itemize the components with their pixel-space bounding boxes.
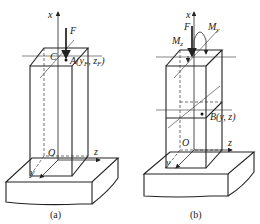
y-axis-b bbox=[176, 150, 194, 168]
x-axis-label-a: x bbox=[47, 9, 53, 20]
y-axis-label-a: y bbox=[29, 167, 35, 178]
y-axis-label-b: y bbox=[165, 157, 171, 168]
moment-arrow-b bbox=[194, 32, 206, 56]
y-axis-a bbox=[40, 160, 58, 178]
point-a-label: A(yF, zF) bbox=[69, 55, 105, 68]
caption-a: (a) bbox=[50, 209, 61, 221]
axes-a: x z y O bbox=[22, 9, 102, 178]
base-plate-b bbox=[144, 152, 254, 197]
moment-z-label: Mz bbox=[171, 35, 183, 48]
axes-b: x z y O bbox=[156, 9, 236, 168]
z-axis-label-a: z bbox=[93, 146, 98, 157]
x-axis-label-b: x bbox=[185, 9, 191, 20]
force-label-a: F bbox=[69, 25, 77, 36]
z-axis-label-b: z bbox=[227, 137, 232, 148]
figure-a: x z y O F C A(yF, zF) (a) bbox=[6, 9, 118, 221]
moment-y-label: My bbox=[207, 21, 220, 34]
figure-b: x z y O F Mz My B(y, z) (b) bbox=[144, 9, 254, 221]
base-plate-a bbox=[6, 158, 118, 205]
loads-b: F Mz My B(y, z) bbox=[171, 21, 236, 123]
diagram-canvas: x z y O F C A(yF, zF) (a) bbox=[0, 0, 260, 224]
force-label-b: F bbox=[183, 21, 191, 32]
origin-label-a: O bbox=[48, 147, 55, 158]
centroid-label-a: C bbox=[50, 51, 57, 62]
point-b-label: B(y, z) bbox=[210, 111, 236, 123]
caption-b: (b) bbox=[190, 209, 202, 221]
column-a bbox=[30, 48, 88, 176]
origin-label-b: O bbox=[182, 137, 189, 148]
